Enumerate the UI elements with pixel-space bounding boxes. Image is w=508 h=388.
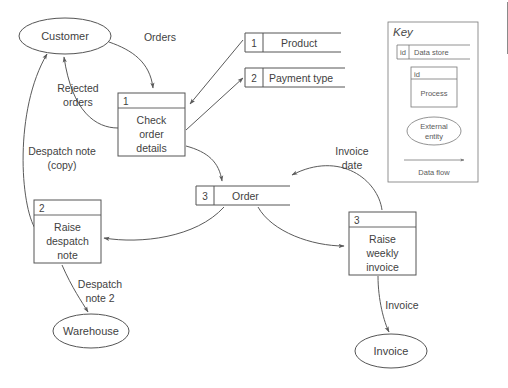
flow-label-despatch-note-2-line-2: note 2 [85,292,114,304]
external-entity-invoice[interactable]: Invoice [355,334,427,368]
process-1-id: 1 [123,96,129,107]
process-2-id: 2 [39,203,45,214]
data-store-order[interactable]: 3 Order [196,186,290,205]
key-entity-label-line-1: External [420,122,448,131]
flow-label-rejected-orders-line-1: Rejected [57,82,99,94]
data-store-product[interactable]: 1 Product [245,33,341,52]
data-store-payment-type[interactable]: 2 Payment type [245,68,345,87]
flow-label-invoice-date-line-2: date [342,159,363,171]
process-3-label-line-2: weekly [365,247,399,259]
flow-label-rejected-orders-line-2: orders [63,96,93,108]
payment-type-id: 2 [251,73,257,84]
process-check-order-details[interactable]: 1 Check order details [118,93,185,156]
process-2-label-line-2: despatch [46,235,89,247]
product-label: Product [281,37,317,49]
external-entity-customer[interactable]: Customer [19,18,111,54]
flow-order-to-process3-line [258,207,344,246]
external-entity-warehouse[interactable]: Warehouse [53,314,129,348]
order-id: 3 [202,191,208,202]
flow-label-despatch-note-2-line-1: Despatch [78,278,123,290]
flow-process1-to-order-line [186,146,222,181]
flow-label-invoice-out: Invoice [385,299,418,311]
flow-label-orders: Orders [144,31,176,43]
warehouse-label: Warehouse [63,325,119,337]
diagram-canvas: Customer Warehouse Invoice 1 Check order… [0,0,508,388]
flow-order-to-process2-line [104,207,224,240]
payment-type-label: Payment type [269,72,333,84]
process-raise-despatch-note[interactable]: 2 Raise despatch note [34,200,101,263]
key-legend: Key id Data store id Process External [388,22,478,182]
flow-label-despatch-note-copy-line-1: Despatch note [28,145,96,157]
process-2-label-line-3: note [57,249,78,261]
flow-product-to-process1-line [190,40,243,104]
key-title: Key [393,26,414,38]
customer-label: Customer [41,30,89,42]
key-process-label: Process [420,89,447,98]
process-3-label-line-3: invoice [366,261,399,273]
invoice-label: Invoice [374,345,409,357]
key-external-entity-symbol: External entity [407,117,461,145]
flow-invoice-date-line [292,166,382,210]
key-entity-label-line-2: entity [425,132,443,141]
process-raise-weekly-invoice[interactable]: 3 Raise weekly invoice [349,212,416,275]
key-datastore-id-label: id [400,48,406,57]
flow-process1-to-paymenttype-line [186,78,243,130]
process-1-label-line-3: details [136,142,166,154]
process-3-id: 3 [354,215,360,226]
process-1-label-line-2: order [139,128,164,140]
process-1-label-line-1: Check [137,114,168,126]
flow-label-invoice-date-line-1: Invoice [335,145,368,157]
product-id: 1 [251,38,257,49]
key-process-symbol: id Process [411,67,457,107]
flow-orders-line [109,42,153,88]
process-2-label-line-1: Raise [54,221,81,233]
key-dataflow-label: Data flow [418,168,450,177]
flow-label-despatch-note-copy-line-2: (copy) [47,159,76,171]
data-flow-diagram: Customer Warehouse Invoice 1 Check order… [0,0,508,388]
process-3-label-line-1: Raise [369,233,396,245]
key-datastore-label: Data store [414,48,449,57]
key-process-id-label: id [414,70,420,79]
order-label: Order [232,190,259,202]
